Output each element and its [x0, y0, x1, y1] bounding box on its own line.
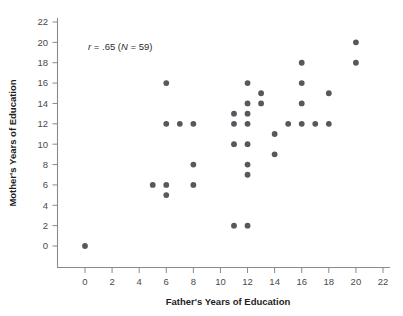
x-tick-label: 20	[351, 276, 362, 287]
data-point	[177, 121, 183, 127]
data-point	[190, 182, 196, 188]
data-point	[231, 223, 237, 229]
data-point	[245, 101, 251, 107]
data-point	[163, 182, 169, 188]
y-tick-label: 18	[37, 57, 48, 68]
data-point	[245, 111, 251, 117]
data-point	[231, 121, 237, 127]
data-point	[272, 131, 278, 137]
data-point	[245, 141, 251, 147]
x-tick-label: 8	[191, 276, 196, 287]
data-point	[82, 243, 88, 249]
y-tick-label: 10	[37, 139, 48, 150]
y-tick-label: 16	[37, 77, 48, 88]
data-point	[163, 80, 169, 86]
y-tick-label: 12	[37, 118, 48, 129]
data-point	[163, 192, 169, 198]
x-tick-label: 2	[109, 276, 114, 287]
x-tick-label: 0	[82, 276, 87, 287]
data-point	[299, 101, 305, 107]
data-point	[231, 141, 237, 147]
x-tick-label: 4	[137, 276, 142, 287]
data-point	[353, 39, 359, 45]
x-axis-title: Father's Years of Education	[166, 296, 291, 307]
x-tick-label: 6	[164, 276, 169, 287]
data-point	[285, 121, 291, 127]
data-point	[150, 182, 156, 188]
y-tick-label: 22	[37, 16, 48, 27]
data-point	[326, 121, 332, 127]
data-point	[353, 60, 359, 66]
data-point	[245, 121, 251, 127]
data-point	[299, 60, 305, 66]
y-tick-label: 20	[37, 37, 48, 48]
data-point	[312, 121, 318, 127]
correlation-annotation: r = .65 (N = 59)	[88, 41, 152, 52]
data-point	[258, 90, 264, 96]
data-point	[326, 90, 332, 96]
data-point	[299, 80, 305, 86]
scatter-plot-svg: 0246810121416182022 0246810121416182022 …	[0, 0, 403, 316]
x-tick-label: 10	[215, 276, 226, 287]
data-point	[245, 162, 251, 168]
data-point	[245, 80, 251, 86]
x-tick-label: 18	[324, 276, 335, 287]
data-point	[231, 111, 237, 117]
data-point	[190, 121, 196, 127]
x-tick-label: 14	[269, 276, 280, 287]
data-point	[258, 101, 264, 107]
x-tick-label: 16	[296, 276, 307, 287]
y-tick-label: 8	[43, 159, 48, 170]
data-point	[190, 162, 196, 168]
plot-background	[0, 0, 403, 316]
data-point	[299, 121, 305, 127]
data-point	[163, 121, 169, 127]
y-tick-label: 14	[37, 98, 48, 109]
y-tick-label: 6	[43, 179, 48, 190]
data-point	[245, 223, 251, 229]
y-tick-label: 4	[43, 200, 48, 211]
x-tick-label: 22	[378, 276, 389, 287]
y-axis-title: Mother's Years of Education	[7, 79, 18, 206]
data-point	[245, 172, 251, 178]
y-tick-label: 2	[43, 220, 48, 231]
x-tick-label: 12	[242, 276, 253, 287]
data-point	[272, 151, 278, 157]
scatter-plot-figure: 0246810121416182022 0246810121416182022 …	[0, 0, 403, 316]
y-tick-label: 0	[43, 240, 48, 251]
